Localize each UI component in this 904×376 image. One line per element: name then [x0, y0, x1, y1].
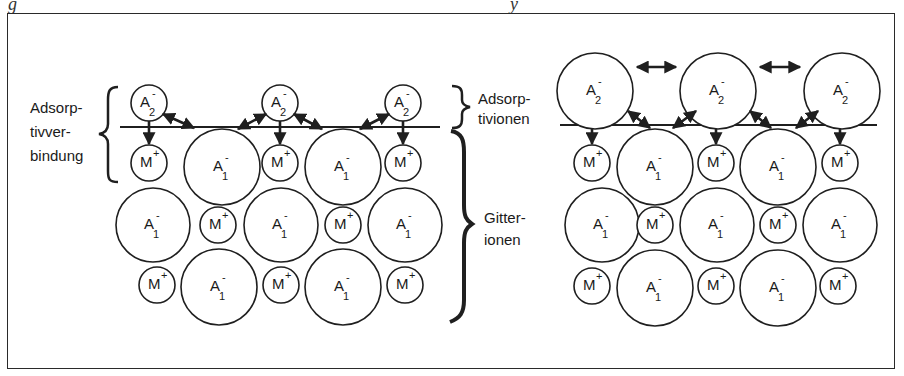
svg-text:-: -: [721, 75, 725, 87]
svg-text:-: -: [605, 209, 609, 221]
label-line-2: tivver-: [30, 123, 71, 140]
brace-left-icon: [99, 87, 118, 182]
anion-a1-minus: A1-: [617, 250, 693, 326]
svg-text:-: -: [406, 87, 410, 99]
svg-text:+: +: [285, 269, 291, 281]
svg-text:-: -: [156, 209, 160, 221]
cation-m-plus: M+: [387, 267, 423, 303]
svg-text:1: 1: [222, 170, 228, 182]
svg-text:2: 2: [842, 94, 848, 106]
cation-m-plus: M+: [262, 145, 298, 181]
svg-text:+: +: [161, 269, 167, 281]
cation-m-plus: M+: [200, 207, 236, 243]
svg-text:+: +: [409, 269, 415, 281]
svg-text:2: 2: [149, 106, 155, 118]
ion-label: M: [829, 276, 842, 293]
svg-text:+: +: [659, 209, 665, 221]
label-adsorptivverbindung: Adsorp- tivver- bindung: [30, 99, 83, 164]
brace-adsorptivionen-icon: [452, 86, 470, 128]
brace-gitterionen-icon: [450, 131, 472, 322]
svg-text:1: 1: [602, 228, 608, 240]
double-arrow-icon: [163, 114, 194, 128]
ion-label: M: [396, 275, 409, 292]
anion-a2-minus-adsorbed: A2-: [680, 53, 756, 129]
cation-m-plus: M+: [760, 207, 796, 243]
svg-text:1: 1: [717, 228, 723, 240]
svg-text:+: +: [842, 270, 848, 282]
anion-a1-minus: A1-: [305, 249, 381, 325]
svg-text:-: -: [222, 271, 226, 283]
svg-text:+: +: [782, 209, 788, 221]
svg-text:+: +: [596, 270, 602, 282]
anion-a2-minus-adsorbed: A2-: [557, 53, 633, 129]
anion-a1-minus: A1-: [368, 188, 442, 262]
cation-m-plus: M+: [574, 268, 610, 304]
label-gitterionen-2: ionen: [484, 231, 521, 248]
svg-text:-: -: [346, 271, 350, 283]
anion-a2-minus-adsorbed: A2-: [385, 85, 421, 121]
label-gitterionen-1: Gitter-: [484, 209, 526, 226]
ion-label: M: [769, 215, 782, 232]
anion-a1-minus: A1-: [181, 249, 257, 325]
ion-label: M: [140, 153, 153, 170]
anion-a1-minus: A1-: [565, 188, 639, 262]
svg-text:1: 1: [778, 291, 784, 303]
svg-text:2: 2: [280, 106, 286, 118]
svg-text:+: +: [284, 147, 290, 159]
ion-label: M: [646, 215, 659, 232]
label-adsorptivionen-1: Adsorp-: [478, 90, 531, 107]
svg-text:1: 1: [343, 290, 349, 302]
ion-label: M: [583, 276, 596, 293]
cation-m-plus: M+: [139, 267, 175, 303]
ion-label: M: [148, 275, 161, 292]
svg-text:2: 2: [595, 94, 601, 106]
svg-text:-: -: [283, 87, 287, 99]
label-line-1: Adsorp-: [30, 99, 83, 116]
anion-a2-minus-adsorbed: A2-: [262, 85, 298, 121]
svg-text:1: 1: [778, 170, 784, 182]
svg-text:1: 1: [655, 170, 661, 182]
svg-text:-: -: [658, 151, 662, 163]
ion-label: M: [209, 215, 222, 232]
anion-a1-minus: A1-: [184, 129, 260, 205]
anion-a1-minus: A1-: [680, 188, 754, 262]
anion-a2-minus-adsorbed: A2-: [131, 85, 167, 121]
cation-m-plus: M+: [385, 145, 421, 181]
svg-text:-: -: [598, 75, 602, 87]
cation-m-plus: M+: [820, 268, 856, 304]
svg-text:+: +: [844, 147, 850, 159]
ion-label: M: [272, 275, 285, 292]
cation-m-plus: M+: [263, 267, 299, 303]
svg-text:1: 1: [219, 290, 225, 302]
ion-label: M: [707, 276, 720, 293]
svg-text:-: -: [843, 209, 847, 221]
svg-text:-: -: [781, 272, 785, 284]
cation-m-plus: M+: [325, 207, 361, 243]
anion-a1-minus: A1-: [244, 188, 318, 262]
svg-text:+: +: [153, 147, 159, 159]
ion-label: M: [831, 153, 844, 170]
svg-text:1: 1: [281, 228, 287, 240]
anion-a1-minus: A1-: [740, 250, 816, 326]
cation-m-plus: M+: [822, 145, 858, 181]
svg-text:-: -: [845, 75, 849, 87]
anion-a2-minus-adsorbed: A2-: [804, 53, 880, 129]
svg-text:1: 1: [405, 228, 411, 240]
adsorption-diagram: Adsorp- tivver- bindung Adsorp- tivionen…: [0, 0, 904, 376]
svg-text:1: 1: [153, 228, 159, 240]
anion-a1-minus: A1-: [305, 129, 381, 205]
svg-text:-: -: [346, 151, 350, 163]
svg-text:+: +: [407, 147, 413, 159]
anion-a1-minus: A1-: [803, 188, 877, 262]
ion-label: M: [583, 153, 596, 170]
svg-text:-: -: [781, 151, 785, 163]
label-adsorptivionen-2: tivionen: [478, 110, 530, 127]
svg-text:-: -: [152, 87, 156, 99]
cation-m-plus: M+: [574, 145, 610, 181]
svg-text:2: 2: [718, 94, 724, 106]
svg-text:2: 2: [403, 106, 409, 118]
anion-a1-minus: A1-: [740, 129, 816, 205]
ion-label: M: [271, 153, 284, 170]
svg-text:1: 1: [343, 170, 349, 182]
anion-a1-minus: A1-: [617, 129, 693, 205]
